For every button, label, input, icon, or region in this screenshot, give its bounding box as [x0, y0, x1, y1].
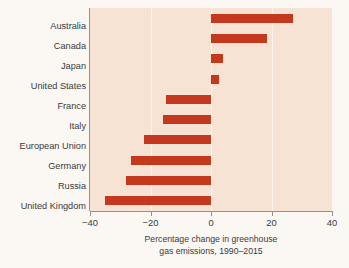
bar-united-states	[211, 75, 219, 84]
bar-france	[166, 95, 211, 104]
bar-russia	[126, 176, 211, 185]
bar-italy	[163, 115, 211, 124]
x-axis-tick-minus40	[90, 211, 91, 216]
bar-canada	[211, 34, 267, 43]
x-axis-tick-40	[332, 211, 333, 216]
y-axis-label-italy: Italy	[0, 121, 86, 131]
x-axis-ticklabel-minus40: −40	[82, 217, 98, 228]
y-axis-label-japan: Japan	[0, 61, 86, 71]
x-axis-title: Percentage change in greenhouse gas emis…	[90, 234, 332, 257]
x-axis-tick-20	[272, 211, 273, 216]
plot-area	[90, 8, 332, 211]
y-axis-label-france: France	[0, 101, 86, 111]
bar-japan	[211, 54, 223, 63]
x-axis-ticklabel-minus20: −20	[143, 217, 159, 228]
x-axis-ticklabel-0: 0	[208, 217, 213, 228]
x-axis-tick-minus20	[151, 211, 152, 216]
y-axis-label-germany: Germany	[0, 161, 86, 171]
gridline-plus-20	[272, 8, 273, 211]
x-axis-ticklabel-20: 20	[266, 217, 276, 228]
x-axis-ticklabel-40: 40	[327, 217, 337, 228]
bar-european-union	[144, 135, 211, 144]
x-axis-title-line-2: gas emissions, 1990–2015	[90, 246, 332, 258]
bar-australia	[211, 14, 293, 23]
y-axis-label-united-states: United States	[0, 81, 86, 91]
y-axis-category-labels: Australia Canada Japan United States Fra…	[0, 8, 86, 211]
chart-figure: Australia Canada Japan United States Fra…	[0, 0, 349, 268]
y-axis-label-australia: Australia	[0, 21, 86, 31]
y-axis-label-canada: Canada	[0, 41, 86, 51]
bar-germany	[131, 156, 211, 165]
bar-united-kingdom	[105, 196, 211, 205]
y-axis-spine	[89, 8, 90, 211]
y-axis-label-european-union: European Union	[0, 141, 86, 151]
y-axis-label-united-kingdom: United Kingdom	[0, 201, 86, 211]
y-axis-label-russia: Russia	[0, 181, 86, 191]
x-axis-tick-0	[211, 211, 212, 216]
x-axis-title-line-1: Percentage change in greenhouse	[90, 234, 332, 246]
